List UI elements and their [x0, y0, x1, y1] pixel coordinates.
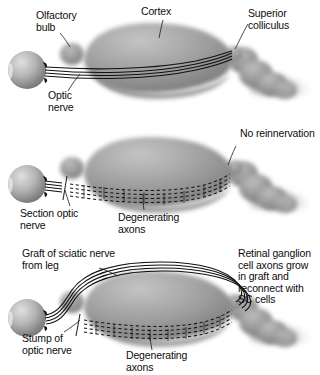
panel-3-stage: Graft of sciatic nerve from leg Retinal …: [0, 240, 320, 375]
label-graft-of-sciatic-nerve: Graft of sciatic nerve from leg: [22, 248, 115, 271]
label-optic-nerve: Optic nerve: [48, 90, 74, 113]
label-stump-of-optic-nerve: Stump of optic nerve: [22, 333, 72, 356]
label-retinal-ganglion-regrowth: Retinal ganglion cell axons grow in graf…: [238, 248, 311, 306]
panel-sciatic-nerve-graft: Graft of sciatic nerve from leg Retinal …: [0, 240, 320, 375]
label-section-optic-nerve: Section optic nerve: [20, 208, 78, 231]
olfactory-bulb-structure: [60, 157, 84, 179]
panel-2-stage: No reinnervation Section optic nerve Deg…: [0, 120, 320, 242]
optic-nerve-stump: [45, 181, 62, 192]
label-olfactory-bulb: Olfactory bulb: [36, 10, 77, 33]
label-cortex: Cortex: [141, 6, 171, 18]
olfactory-bulb-structure: [60, 43, 84, 65]
leader-olfactory-bulb: [60, 33, 70, 47]
panel-normal-projection: Olfactory bulb Cortex Superior colliculu…: [0, 0, 320, 125]
stump-cut-mark: [76, 314, 80, 336]
label-superior-colliculus: Superior colliculus: [248, 8, 289, 31]
eyeball: [8, 51, 46, 89]
leader-section-optic-nerve: [65, 190, 70, 206]
retina-mark-bottom: [44, 326, 47, 331]
panel-1-stage: Olfactory bulb Cortex Superior colliculu…: [0, 0, 320, 125]
label-degenerating-axons: Degenerating axons: [126, 350, 187, 373]
panel-sectioned-nerve-degeneration: No reinnervation Section optic nerve Deg…: [0, 120, 320, 242]
label-no-reinnervation: No reinnervation: [240, 128, 315, 140]
label-degenerating-axons: Degenerating axons: [118, 212, 179, 235]
section-cut-mark: [63, 176, 67, 200]
retina-mark-bottom: [44, 78, 47, 83]
eyeball: [8, 165, 46, 203]
leader-superior-colliculus: [235, 24, 248, 49]
retina-mark-bottom: [44, 192, 47, 197]
